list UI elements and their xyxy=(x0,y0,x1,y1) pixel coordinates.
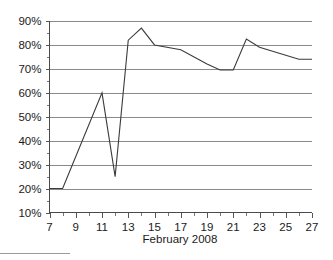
y-tick-labels-group: 90%80%70%60%50%40%30%20%10% xyxy=(18,15,41,219)
x-tick-label-27: 27 xyxy=(306,221,319,233)
y-tick-label-60: 60% xyxy=(18,87,41,99)
x-axis-title: February 2008 xyxy=(143,233,218,245)
y-tick-label-40: 40% xyxy=(18,135,41,147)
x-tick-label-17: 17 xyxy=(174,221,187,233)
y-tick-label-20: 20% xyxy=(18,183,41,195)
x-tick-label-13: 13 xyxy=(122,221,135,233)
y-tick-label-90: 90% xyxy=(18,15,41,27)
y-tick-label-30: 30% xyxy=(18,159,41,171)
x-tick-label-21: 21 xyxy=(227,221,240,233)
x-tick-label-11: 11 xyxy=(96,221,108,233)
chart-container: 90%80%70%60%50%40%30%20%10% 791113151719… xyxy=(0,0,333,260)
x-tick-label-9: 9 xyxy=(73,221,79,233)
x-tick-label-23: 23 xyxy=(253,221,266,233)
x-tick-label-19: 19 xyxy=(201,221,214,233)
y-tick-label-10: 10% xyxy=(18,207,41,219)
x-tick-label-15: 15 xyxy=(148,221,161,233)
x-tick-label-25: 25 xyxy=(279,221,292,233)
line-chart: 90%80%70%60%50%40%30%20%10% 791113151719… xyxy=(0,0,333,260)
y-tick-label-70: 70% xyxy=(18,63,41,75)
x-tick-label-7: 7 xyxy=(46,221,52,233)
y-tick-label-50: 50% xyxy=(18,111,41,123)
y-tick-label-80: 80% xyxy=(18,39,41,51)
